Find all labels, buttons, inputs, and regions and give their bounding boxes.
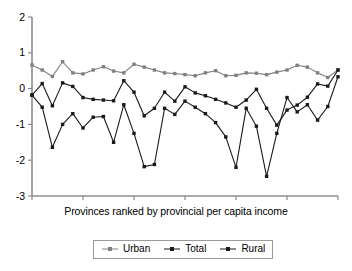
data-point-rural: [326, 105, 329, 108]
data-point-total: [122, 79, 125, 82]
data-point-rural: [306, 103, 309, 106]
data-point-rural: [81, 126, 84, 129]
data-point-total: [173, 99, 176, 102]
data-point-rural: [296, 110, 299, 113]
data-point-urban: [245, 71, 248, 74]
data-point-total: [245, 98, 248, 101]
x-axis-title: Provinces ranked by provincial per capit…: [0, 205, 352, 218]
data-point-urban: [183, 73, 186, 76]
data-point-total: [234, 106, 237, 109]
data-point-total: [285, 108, 288, 111]
data-point-rural: [214, 121, 217, 124]
data-point-urban: [194, 74, 197, 77]
data-point-urban: [255, 72, 258, 75]
data-point-urban: [51, 75, 54, 78]
data-point-urban: [163, 71, 166, 74]
data-point-rural: [183, 99, 186, 102]
data-point-rural: [92, 116, 95, 119]
y-tick-label: 0: [19, 82, 25, 94]
data-point-rural: [224, 135, 227, 138]
data-point-total: [255, 88, 258, 91]
legend-item-total: Total: [163, 243, 206, 255]
data-point-rural: [163, 107, 166, 110]
data-point-rural: [30, 93, 33, 96]
data-point-rural: [61, 123, 64, 126]
data-point-rural: [204, 112, 207, 115]
data-point-urban: [204, 71, 207, 74]
chart-canvas: 210-1-2-3161116212631: [0, 0, 352, 200]
data-point-total: [112, 99, 115, 102]
data-point-total: [306, 95, 309, 98]
data-point-total: [41, 82, 44, 85]
data-point-urban: [265, 73, 268, 76]
data-point-total: [204, 94, 207, 97]
legend-swatch-urban: [101, 244, 119, 254]
data-point-total: [132, 90, 135, 93]
data-point-urban: [102, 65, 105, 68]
data-point-urban: [214, 69, 217, 72]
data-point-urban: [173, 72, 176, 75]
data-point-rural: [285, 96, 288, 99]
data-point-total: [296, 103, 299, 106]
data-point-urban: [30, 63, 33, 66]
data-point-rural: [41, 106, 44, 109]
data-point-rural: [153, 163, 156, 166]
data-point-total: [61, 81, 64, 84]
data-point-urban: [112, 69, 115, 72]
y-tick-label: -3: [16, 190, 25, 200]
chart-figure: 210-1-2-3161116212631 Provinces ranked b…: [0, 0, 352, 271]
data-point-rural: [143, 165, 146, 168]
data-point-rural: [316, 118, 319, 121]
data-point-urban: [92, 68, 95, 71]
y-tick-label: -2: [16, 154, 25, 166]
data-point-urban: [132, 63, 135, 66]
data-point-total: [224, 101, 227, 104]
data-point-urban: [71, 71, 74, 74]
data-point-total: [316, 82, 319, 85]
data-point-total: [265, 107, 268, 110]
data-point-urban: [122, 71, 125, 74]
chart-legend: Urban Total Rural: [93, 240, 273, 259]
data-point-rural: [245, 107, 248, 110]
data-point-urban: [326, 76, 329, 79]
data-point-total: [102, 98, 105, 101]
data-point-urban: [143, 65, 146, 68]
data-point-total: [326, 84, 329, 87]
data-point-urban: [153, 68, 156, 71]
series-line-total: [32, 70, 338, 125]
legend-swatch-rural: [219, 244, 237, 254]
data-point-rural: [255, 124, 258, 127]
data-point-urban: [296, 64, 299, 67]
data-point-rural: [132, 132, 135, 135]
data-point-rural: [194, 106, 197, 109]
data-point-total: [163, 90, 166, 93]
data-point-rural: [51, 146, 54, 149]
data-point-rural: [336, 75, 339, 78]
data-point-total: [51, 104, 54, 107]
legend-label-total: Total: [185, 243, 206, 255]
data-point-rural: [275, 132, 278, 135]
data-point-total: [183, 85, 186, 88]
legend-label-rural: Rural: [241, 243, 265, 255]
data-point-urban: [81, 72, 84, 75]
y-tick-label: 1: [19, 46, 25, 58]
data-point-total: [275, 123, 278, 126]
legend-item-rural: Rural: [219, 243, 265, 255]
data-point-urban: [61, 60, 64, 63]
data-point-total: [92, 98, 95, 101]
data-point-urban: [224, 74, 227, 77]
data-point-urban: [306, 65, 309, 68]
plot-area: 210-1-2-3161116212631: [0, 0, 352, 200]
data-point-rural: [71, 112, 74, 115]
data-point-total: [81, 96, 84, 99]
data-point-total: [336, 68, 339, 71]
data-point-urban: [275, 70, 278, 73]
legend-label-urban: Urban: [123, 243, 150, 255]
data-point-urban: [41, 68, 44, 71]
data-point-rural: [112, 141, 115, 144]
data-point-total: [71, 85, 74, 88]
data-point-rural: [234, 166, 237, 169]
legend-swatch-total: [163, 244, 181, 254]
data-point-rural: [173, 113, 176, 116]
y-tick-label: 2: [19, 11, 25, 23]
